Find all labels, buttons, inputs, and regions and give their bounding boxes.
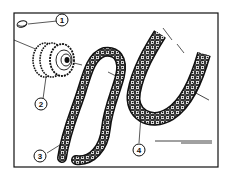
callout-3: 3 [34, 150, 46, 162]
callout-4: 4 [133, 144, 145, 156]
reference-lines [155, 141, 212, 143]
key-part [16, 20, 57, 28]
diagram-canvas: 1 2 3 4 [0, 0, 229, 180]
callout-1: 1 [56, 14, 68, 26]
callout-label: 3 [38, 152, 43, 161]
sprocket-part [14, 40, 82, 99]
chain-part-4 [133, 28, 208, 143]
callout-label: 1 [60, 16, 65, 25]
callout-2: 2 [35, 98, 47, 110]
callout-label: 4 [137, 146, 142, 155]
callout-label: 2 [39, 100, 44, 109]
